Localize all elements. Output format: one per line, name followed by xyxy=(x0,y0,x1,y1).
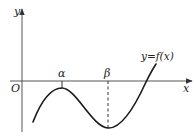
function-curve xyxy=(33,64,156,128)
x-axis-label: x xyxy=(183,82,190,95)
curve-label: y=f(x) xyxy=(140,50,174,62)
graph-svg: y x O α β y=f(x) xyxy=(0,0,196,140)
origin-label: O xyxy=(11,82,20,95)
alpha-label: α xyxy=(58,67,66,80)
y-axis-label: y xyxy=(13,5,21,18)
function-graph-figure: y x O α β y=f(x) xyxy=(0,0,196,140)
beta-label: β xyxy=(103,67,110,80)
